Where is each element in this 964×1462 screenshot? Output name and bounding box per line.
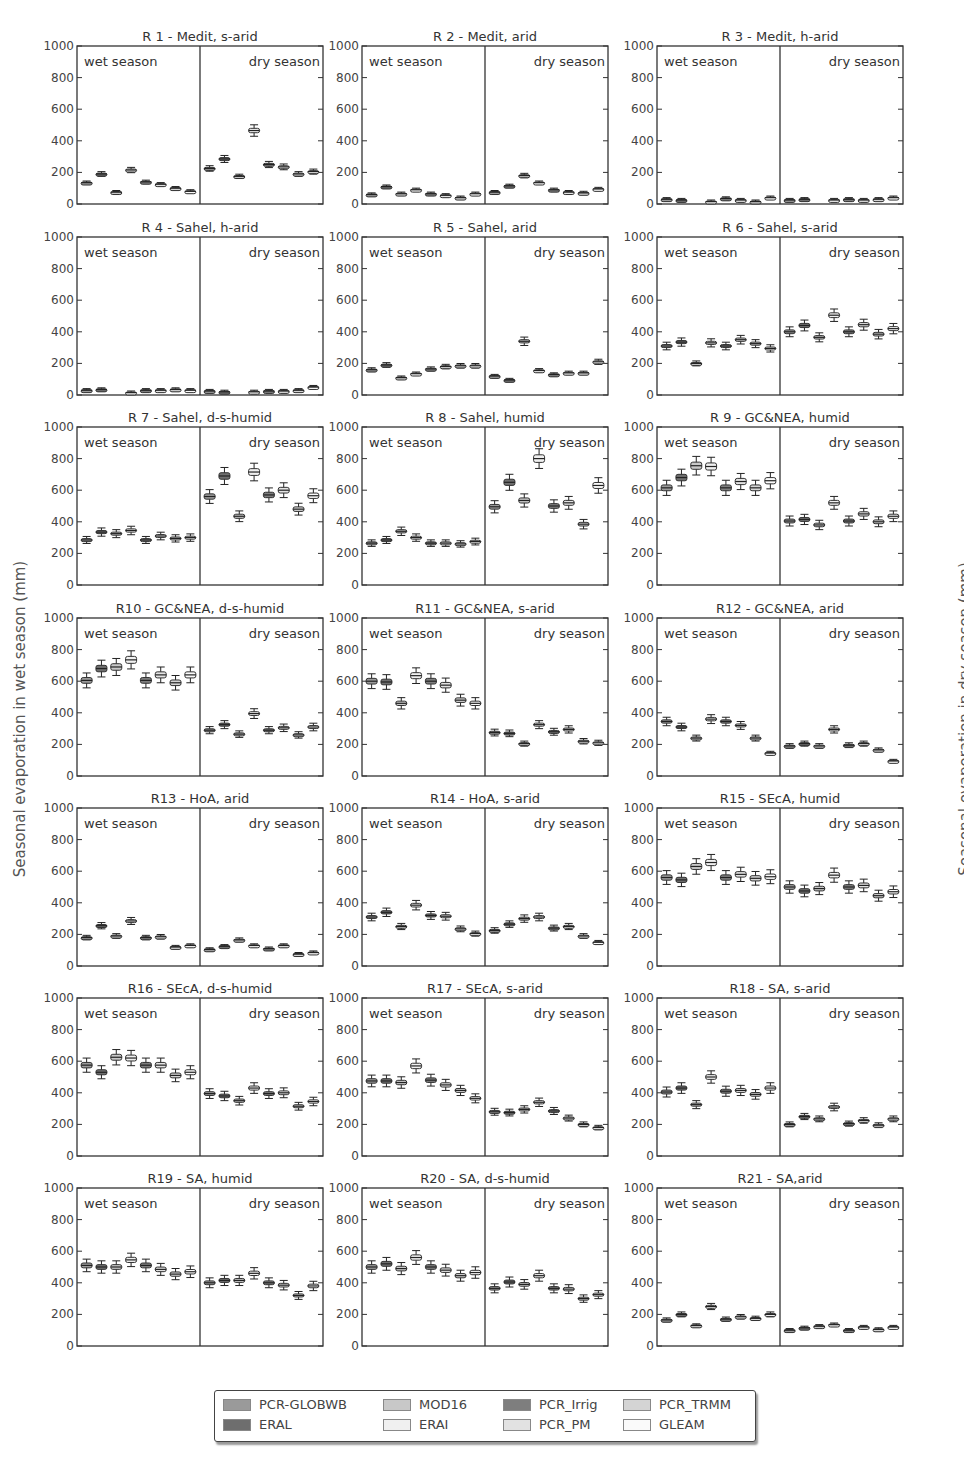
y-tick-label: 800 bbox=[631, 262, 654, 276]
y-tick-label: 200 bbox=[51, 1117, 74, 1131]
legend-label: PCR_TRMM bbox=[659, 1397, 731, 1412]
y-tick-label: 600 bbox=[51, 864, 74, 878]
panel: R13 - HoA, arid02004006008001000wet seas… bbox=[43, 791, 323, 973]
legend-swatch bbox=[223, 1399, 251, 1411]
y-tick-label: 600 bbox=[51, 293, 74, 307]
y-tick-label: 400 bbox=[631, 515, 654, 529]
y-tick-label: 1000 bbox=[623, 611, 654, 625]
panel-title: R 1 - Medit, s-arid bbox=[142, 29, 257, 44]
y-tick-label: 800 bbox=[631, 452, 654, 466]
wet-season-label: wet season bbox=[84, 54, 158, 69]
y-tick-label: 400 bbox=[51, 1276, 74, 1290]
dry-season-label: dry season bbox=[534, 54, 605, 69]
dry-season-label: dry season bbox=[249, 54, 320, 69]
y-tick-label: 1000 bbox=[43, 39, 74, 53]
y-tick-label: 600 bbox=[336, 483, 359, 497]
y-axis-label-left: Seasonal evaporation in wet season (mm) bbox=[11, 509, 29, 929]
y-tick-label: 200 bbox=[631, 356, 654, 370]
y-tick-label: 1000 bbox=[43, 801, 74, 815]
y-tick-label: 0 bbox=[66, 769, 74, 783]
wet-season-label: wet season bbox=[664, 245, 738, 260]
y-tick-label: 1000 bbox=[43, 230, 74, 244]
y-tick-label: 800 bbox=[336, 71, 359, 85]
panel-title: R12 - GC&NEA, arid bbox=[716, 601, 844, 616]
y-tick-label: 800 bbox=[51, 71, 74, 85]
wet-season-label: wet season bbox=[84, 435, 158, 450]
wet-season-label: wet season bbox=[664, 626, 738, 641]
y-tick-label: 200 bbox=[631, 927, 654, 941]
y-tick-label: 0 bbox=[66, 959, 74, 973]
panel: R20 - SA, d-s-humid02004006008001000wet … bbox=[328, 1171, 608, 1353]
panel-title: R 8 - Sahel, humid bbox=[425, 410, 545, 425]
y-tick-label: 200 bbox=[336, 737, 359, 751]
legend-item-pcr-trmm: PCR_TRMM bbox=[623, 1397, 731, 1412]
y-tick-label: 1000 bbox=[43, 611, 74, 625]
legend-swatch bbox=[503, 1419, 531, 1431]
y-tick-label: 600 bbox=[631, 1054, 654, 1068]
y-tick-label: 600 bbox=[631, 293, 654, 307]
y-tick-label: 200 bbox=[51, 927, 74, 941]
y-tick-label: 800 bbox=[631, 1213, 654, 1227]
y-tick-label: 600 bbox=[631, 483, 654, 497]
y-tick-label: 400 bbox=[631, 1276, 654, 1290]
wet-season-label: wet season bbox=[369, 626, 443, 641]
y-tick-label: 600 bbox=[336, 102, 359, 116]
dry-season-label: dry season bbox=[249, 816, 320, 831]
plot-grid: R 1 - Medit, s-arid02004006008001000wet … bbox=[0, 0, 964, 1462]
y-tick-label: 1000 bbox=[623, 1181, 654, 1195]
y-tick-label: 800 bbox=[631, 833, 654, 847]
y-tick-label: 0 bbox=[351, 1339, 359, 1353]
legend-swatch bbox=[623, 1399, 651, 1411]
y-tick-label: 600 bbox=[51, 674, 74, 688]
wet-season-label: wet season bbox=[664, 1196, 738, 1211]
panel: R 9 - GC&NEA, humid02004006008001000wet … bbox=[623, 410, 903, 592]
y-tick-label: 0 bbox=[646, 388, 654, 402]
y-tick-label: 0 bbox=[66, 388, 74, 402]
panel: R15 - SEcA, humid02004006008001000wet se… bbox=[623, 791, 903, 973]
y-tick-label: 0 bbox=[351, 388, 359, 402]
y-tick-label: 0 bbox=[646, 769, 654, 783]
panel-title: R19 - SA, humid bbox=[147, 1171, 252, 1186]
dry-season-label: dry season bbox=[829, 626, 900, 641]
y-tick-label: 200 bbox=[336, 356, 359, 370]
figure: R 1 - Medit, s-arid02004006008001000wet … bbox=[0, 0, 964, 1462]
y-tick-label: 0 bbox=[351, 1149, 359, 1163]
legend-item-pcr-irrig: PCR_Irrig bbox=[503, 1397, 598, 1412]
dry-season-label: dry season bbox=[249, 1196, 320, 1211]
y-tick-label: 200 bbox=[51, 1307, 74, 1321]
panel-title: R15 - SEcA, humid bbox=[720, 791, 840, 806]
y-tick-label: 200 bbox=[631, 1307, 654, 1321]
legend-label: GLEAM bbox=[659, 1417, 705, 1432]
y-tick-label: 200 bbox=[631, 1117, 654, 1131]
panel: R10 - GC&NEA, d-s-humid02004006008001000… bbox=[43, 601, 323, 783]
wet-season-label: wet season bbox=[84, 1006, 158, 1021]
y-tick-label: 400 bbox=[631, 896, 654, 910]
y-tick-label: 200 bbox=[336, 1117, 359, 1131]
y-tick-label: 600 bbox=[631, 674, 654, 688]
y-tick-label: 400 bbox=[51, 896, 74, 910]
panel-title: R11 - GC&NEA, s-arid bbox=[415, 601, 555, 616]
y-tick-label: 600 bbox=[51, 102, 74, 116]
dry-season-label: dry season bbox=[249, 1006, 320, 1021]
wet-season-label: wet season bbox=[84, 1196, 158, 1211]
y-tick-label: 200 bbox=[51, 356, 74, 370]
y-tick-label: 800 bbox=[631, 643, 654, 657]
legend-swatch bbox=[383, 1419, 411, 1431]
y-tick-label: 400 bbox=[336, 1276, 359, 1290]
y-tick-label: 400 bbox=[631, 706, 654, 720]
y-tick-label: 1000 bbox=[328, 230, 359, 244]
dry-season-label: dry season bbox=[534, 816, 605, 831]
wet-season-label: wet season bbox=[664, 816, 738, 831]
y-tick-label: 800 bbox=[51, 452, 74, 466]
y-tick-label: 800 bbox=[631, 71, 654, 85]
y-tick-label: 600 bbox=[51, 1054, 74, 1068]
panel: R 5 - Sahel, arid02004006008001000wet se… bbox=[328, 220, 608, 402]
y-tick-label: 1000 bbox=[328, 1181, 359, 1195]
dry-season-label: dry season bbox=[829, 1196, 900, 1211]
dry-season-label: dry season bbox=[829, 816, 900, 831]
dry-season-label: dry season bbox=[829, 54, 900, 69]
y-tick-label: 600 bbox=[336, 293, 359, 307]
y-tick-label: 0 bbox=[646, 578, 654, 592]
wet-season-label: wet season bbox=[369, 1006, 443, 1021]
y-tick-label: 1000 bbox=[328, 39, 359, 53]
